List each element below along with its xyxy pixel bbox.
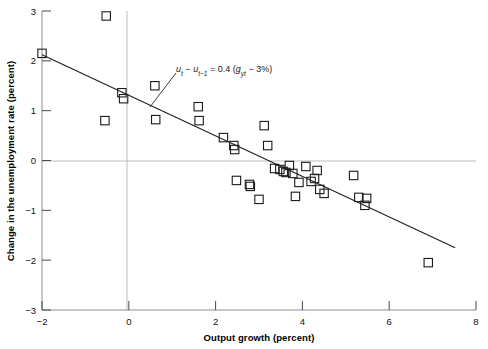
data-point-marker <box>260 121 268 129</box>
x-tick-label: 2 <box>213 316 218 327</box>
x-tick-label: 4 <box>300 316 305 327</box>
data-point-marker <box>295 178 303 186</box>
plot-canvas: −3−2−10123 −202468 ut − ut−1 = 0.4 (gyt … <box>0 0 488 349</box>
data-point-marker <box>355 193 363 201</box>
y-axis-title: Change in the unemployment rate (percent… <box>5 61 16 261</box>
data-point-group <box>38 12 433 267</box>
data-point-marker <box>101 116 109 124</box>
regression-line <box>42 55 455 248</box>
data-point-marker <box>102 12 110 20</box>
y-tick-label: −2 <box>25 255 36 266</box>
x-tick-label: 8 <box>473 316 478 327</box>
x-tick-group: −202468 <box>37 301 479 327</box>
data-point-marker <box>255 195 263 203</box>
y-tick-label: 2 <box>31 55 36 66</box>
x-tick-label: 6 <box>387 316 392 327</box>
data-point-marker <box>424 258 432 266</box>
x-axis-title: Output growth (percent) <box>203 332 314 343</box>
data-point-marker <box>232 176 240 184</box>
y-tick-label: −3 <box>25 305 36 316</box>
data-point-marker <box>313 166 321 174</box>
data-point-marker <box>152 115 160 123</box>
okun-law-scatter-figure: −3−2−10123 −202468 ut − ut−1 = 0.4 (gyt … <box>0 0 488 349</box>
x-tick-label: −2 <box>37 316 48 327</box>
y-tick-label: 1 <box>31 105 36 116</box>
axes-group <box>42 11 476 310</box>
okun-equation-annotation: ut − ut−1 = 0.4 (gyt − 3%) <box>176 64 272 78</box>
x-tick-label: 0 <box>126 316 131 327</box>
data-point-marker <box>291 192 299 200</box>
data-point-marker <box>310 174 318 182</box>
data-point-marker <box>349 171 357 179</box>
y-tick-label: 0 <box>31 155 36 166</box>
data-point-marker <box>263 141 271 149</box>
data-point-marker <box>302 162 310 170</box>
data-point-marker <box>151 82 159 90</box>
data-point-marker <box>194 102 202 110</box>
data-point-marker <box>195 116 203 124</box>
y-tick-label: 3 <box>31 6 36 17</box>
y-tick-label: −1 <box>25 205 36 216</box>
